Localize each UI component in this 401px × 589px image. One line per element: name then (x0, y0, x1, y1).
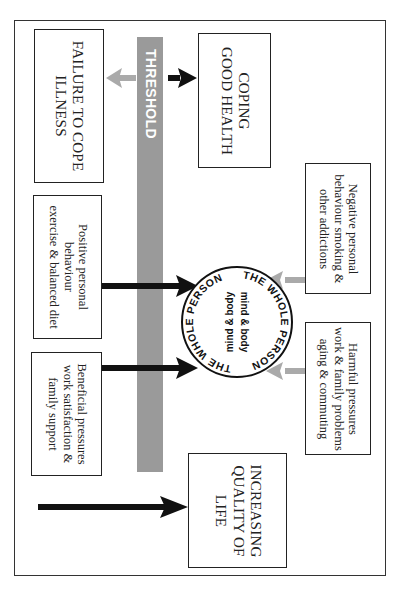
inner-text-1: mind & body (239, 292, 250, 353)
black-arrow-positive-icon (102, 275, 198, 297)
black-arrow-quality-icon (38, 496, 188, 518)
inner-text-2: mind & body (224, 291, 235, 352)
black-arrow-beneficial-icon (102, 357, 198, 379)
arrows-overlay: THE WHOLE PERSON THE WHOLE PERSON mind &… (0, 0, 401, 589)
black-arrow-to-coping-icon (168, 68, 197, 88)
whole-person-circle: THE WHOLE PERSON THE WHOLE PERSON mind &… (182, 267, 292, 377)
gray-arrow-to-failure-icon (106, 68, 136, 88)
